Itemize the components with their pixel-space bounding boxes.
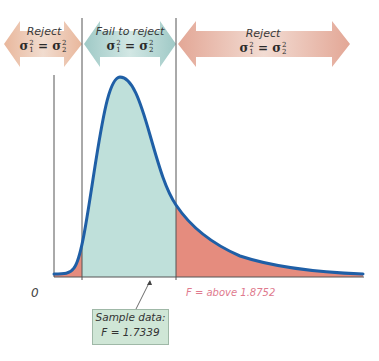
fail-to-reject-hypothesis: σ21 = σ22: [96, 39, 164, 54]
sample-pointer-arrowhead: [147, 280, 152, 285]
sample-pointer-line: [136, 281, 150, 309]
reject-right-label: Reject: [230, 28, 296, 40]
sample-data-value: F = 1.7339: [93, 325, 168, 340]
right-reject-region: [176, 60, 366, 277]
reject-left-label: Reject: [16, 26, 72, 38]
left-reject-region: [54, 60, 82, 277]
sample-data-box: Sample data: F = 1.7339: [92, 309, 169, 345]
f-distribution-diagram: Reject σ21 = σ22 Fail to reject σ21 = σ2…: [0, 0, 379, 361]
origin-label: 0: [31, 286, 39, 300]
sample-data-title: Sample data:: [93, 310, 168, 325]
critical-value-label: F = above 1.8752: [186, 287, 275, 298]
reject-left-hypothesis: σ21 = σ22: [10, 39, 76, 54]
reject-right-hypothesis: σ21 = σ22: [230, 41, 296, 56]
fail-to-reject-label: Fail to reject: [90, 26, 170, 38]
